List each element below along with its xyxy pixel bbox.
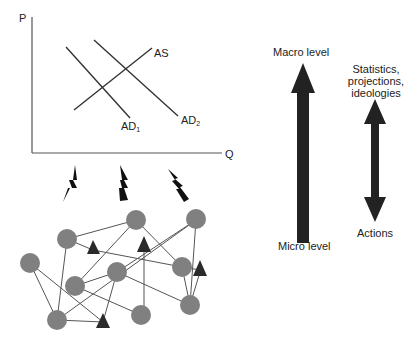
agent-triangle-icon	[96, 313, 110, 328]
feedback-double-arrow-icon	[364, 99, 386, 222]
network-node	[57, 229, 77, 249]
network-node	[180, 295, 200, 315]
ad1-curve-label: AD1	[121, 120, 140, 136]
feedback-top-label: Statistics, projections, ideologies	[342, 63, 410, 99]
macro-micro-arrow-icon	[291, 63, 315, 243]
macro-level-label: Macro level	[273, 46, 329, 58]
lightning-bolt-icon	[119, 165, 128, 201]
micro-level-label: Micro level	[278, 240, 331, 252]
agent-triangle-icon	[137, 236, 151, 252]
ad2-curve-label: AD2	[181, 114, 200, 130]
ad1-subscript: 1	[136, 126, 140, 133]
feedback-line-projections: projections,	[342, 75, 410, 87]
network-nodes	[20, 209, 206, 330]
ad1-label-text: AD	[121, 120, 136, 132]
x-axis-label: Q	[225, 148, 234, 160]
y-axis-label: P	[19, 12, 26, 24]
actions-label: Actions	[357, 227, 393, 239]
ad1-curve	[66, 47, 130, 118]
feedback-line-ideologies: ideologies	[342, 87, 410, 99]
lightning-bolt-icon	[63, 165, 77, 202]
network-node	[47, 310, 67, 330]
network-node	[20, 253, 40, 273]
feedback-line-statistics: Statistics,	[342, 63, 410, 75]
network-node	[131, 305, 151, 325]
ad2-label-text: AD	[181, 114, 196, 126]
agent-triangle-icon	[87, 240, 100, 254]
network-node	[126, 210, 146, 230]
agent-triangle-icon	[193, 260, 207, 276]
network-node	[65, 276, 85, 296]
lightning-bolt-icon	[168, 169, 189, 202]
network-node	[107, 262, 127, 282]
network-node	[186, 209, 206, 229]
network-node	[172, 257, 192, 277]
as-curve-label: AS	[154, 47, 169, 59]
ad2-subscript: 2	[196, 120, 200, 127]
diagram-canvas	[0, 0, 416, 344]
